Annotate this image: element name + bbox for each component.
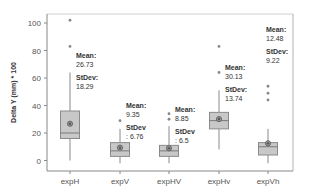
y-axis-title: Delta Y (mm) * 100 xyxy=(10,62,18,123)
annotation-expHv: 30.13 xyxy=(225,73,243,80)
outlier-point xyxy=(168,112,171,115)
annotation-expHV: Mean: xyxy=(175,106,195,113)
outlier-point xyxy=(267,92,270,95)
annotation-expV: 9.35 xyxy=(126,111,140,118)
x-tick-label: expV xyxy=(111,177,130,186)
annotation-expVh: 9.22 xyxy=(266,57,280,64)
y-tick-label: 0 xyxy=(37,157,42,166)
annotation-expH: 26.73 xyxy=(76,61,94,68)
y-tick-label: 60 xyxy=(32,74,41,83)
annotation-expVh: Mean: xyxy=(266,26,286,33)
annotation-expH: Mean: xyxy=(76,52,96,59)
annotation-expHv: 13.74 xyxy=(225,95,243,102)
annotation-expV: : 6.76 xyxy=(126,133,144,140)
x-tick-label: expH xyxy=(61,177,80,186)
outlier-point xyxy=(267,99,270,102)
annotation-expV: StDev xyxy=(126,124,146,131)
chart-canvas: 020406080100Delta Y (mm) * 100expHexpVex… xyxy=(0,0,311,196)
outlier-point xyxy=(168,118,171,121)
mean-marker-core xyxy=(69,123,71,125)
mean-marker-core xyxy=(218,118,220,120)
annotation-expHv: Mean: xyxy=(225,64,245,71)
y-tick-label: 80 xyxy=(32,47,41,56)
y-tick-label: 40 xyxy=(32,102,41,111)
annotation-expVh: StDev: xyxy=(266,48,288,55)
x-tick-label: expHv xyxy=(208,177,231,186)
annotation-expHV: StDev xyxy=(175,128,195,135)
outlier-point xyxy=(218,45,221,48)
mean-marker-core xyxy=(119,146,121,148)
outlier-point xyxy=(119,119,122,122)
annotation-expHv: StDev: xyxy=(225,86,247,93)
y-tick-label: 100 xyxy=(28,19,42,28)
annotation-expHV: : 6.5 xyxy=(175,137,189,144)
mean-marker-core xyxy=(267,142,269,144)
outlier-point xyxy=(69,19,72,22)
annotation-expHV: 8.85 xyxy=(175,115,189,122)
annotation-expV: Mean: xyxy=(126,102,146,109)
x-tick-label: expVh xyxy=(257,177,280,186)
annotation-expVh: 12.48 xyxy=(266,35,284,42)
annotation-expH: 18.29 xyxy=(76,83,94,90)
annotation-expH: StDev: xyxy=(76,74,98,81)
outlier-point xyxy=(267,85,270,88)
y-tick-label: 20 xyxy=(32,129,41,138)
mean-marker-core xyxy=(168,147,170,149)
outlier-point xyxy=(218,71,221,74)
outlier-point xyxy=(69,45,72,48)
x-tick-label: expHV xyxy=(157,177,182,186)
box-plot-chart: 020406080100Delta Y (mm) * 100expHexpVex… xyxy=(0,0,311,196)
